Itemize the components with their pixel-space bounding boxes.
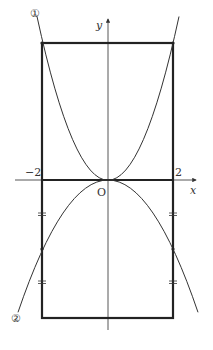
origin-label: O (97, 186, 106, 199)
y-axis-label: y (95, 19, 103, 32)
tick-label-neg-two: −2 (25, 166, 41, 179)
curve-1-label: ① (30, 7, 40, 20)
graph-diagram: y x O −2 2 ① ② (0, 0, 213, 350)
point-mid-right (171, 247, 174, 250)
point-top-right (171, 41, 174, 44)
equal-marks (38, 213, 177, 284)
point-top-left (40, 41, 43, 44)
x-axis-label: x (190, 184, 197, 197)
tick-label-two: 2 (175, 166, 182, 179)
point-mid-left (40, 247, 43, 250)
curve-2-label: ② (11, 312, 21, 325)
